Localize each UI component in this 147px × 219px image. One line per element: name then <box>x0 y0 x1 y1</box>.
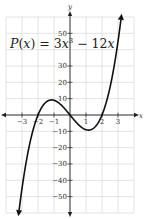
y-tick-label: −30 <box>52 160 67 168</box>
x-tick-label: 1 <box>84 118 88 126</box>
x-axis-label: x <box>139 112 143 120</box>
y-tick-label: −40 <box>52 177 67 185</box>
y-tick-label: 10 <box>58 95 67 103</box>
chart-title: P(x) = 3x3 − 12x <box>9 36 115 51</box>
x-tick-label: −1 <box>49 118 59 126</box>
y-axis-label: y <box>67 3 73 11</box>
y-tick-label: 30 <box>58 62 67 70</box>
x-tick-label: 3 <box>116 118 120 126</box>
x-tick-label: −3 <box>17 118 27 126</box>
y-tick-label: −50 <box>52 193 67 201</box>
y-tick-label: 20 <box>58 79 67 87</box>
y-tick-label: −20 <box>52 144 67 152</box>
function-graph: −3−2−112350302010−10−20−30−40−50 x y P(x… <box>0 0 147 219</box>
y-tick-label: −10 <box>52 128 67 136</box>
